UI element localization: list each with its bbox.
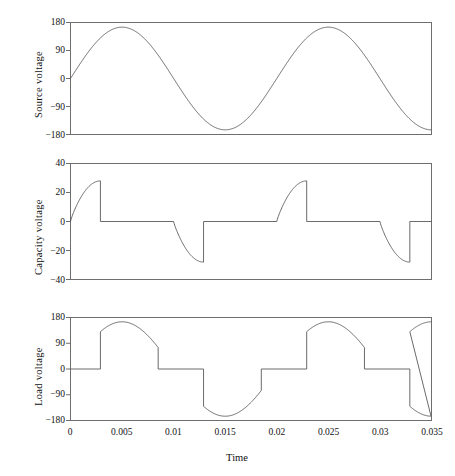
xtick-0: 0 — [68, 427, 73, 437]
xtick-1: 0.005 — [111, 427, 132, 437]
panel-3-plot — [0, 0, 455, 476]
xtick-4: 0.02 — [269, 427, 286, 437]
xtick-3: 0.015 — [214, 427, 235, 437]
figure-container: Source voltage 180 90 0 −90 −180 Capacit… — [0, 0, 455, 476]
panel-3-trace-load-voltage — [71, 322, 432, 416]
xtick-5: 0.025 — [318, 427, 339, 437]
xtick-6: 0.03 — [372, 427, 389, 437]
xtick-7: 0.035 — [421, 427, 442, 437]
xtick-2: 0.01 — [165, 427, 182, 437]
x-axis-title: Time — [226, 452, 248, 463]
